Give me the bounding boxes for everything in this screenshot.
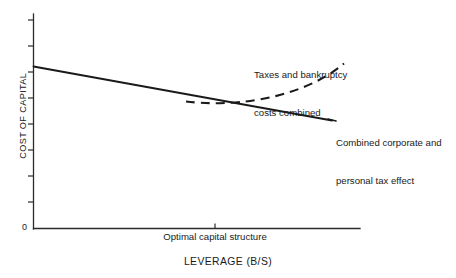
y-axis-title: COST OF CAPITAL — [18, 61, 30, 171]
bankruptcy-annotation-line1: Taxes and bankruptcy — [254, 69, 347, 82]
y-axis-origin-label: 0 — [22, 222, 27, 233]
bankruptcy-annotation: Taxes and bankruptcy costs combined — [254, 44, 347, 144]
optimal-capital-structure-label: Optimal capital structure — [135, 231, 295, 243]
tax-effect-annotation: Combined corporate and personal tax effe… — [336, 112, 442, 212]
x-axis-title: LEVERAGE (B/S) — [0, 255, 456, 268]
bankruptcy-annotation-line2: costs combined — [254, 107, 347, 120]
tax-effect-annotation-line1: Combined corporate and — [336, 137, 442, 150]
cost-of-capital-chart: COST OF CAPITAL LEVERAGE (B/S) 0 Optimal… — [0, 0, 456, 278]
tax-effect-annotation-line2: personal tax effect — [336, 175, 442, 188]
